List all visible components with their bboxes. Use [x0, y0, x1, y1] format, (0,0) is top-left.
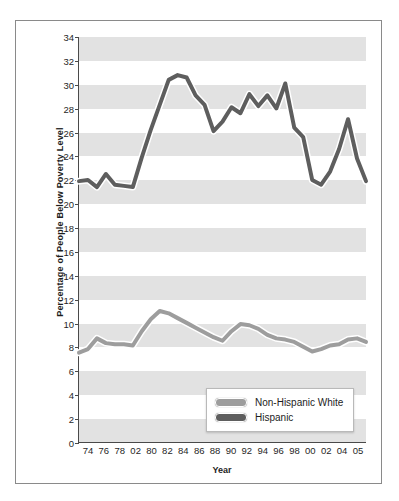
x-tick-label: 74 [83, 445, 94, 456]
x-tick-label: 96 [273, 445, 284, 456]
y-tick-label: 16 [63, 246, 74, 257]
legend-label: Non-Hispanic White [255, 397, 343, 408]
x-tick-label: 05 [353, 445, 364, 456]
legend-item: Non-Hispanic White [215, 395, 343, 410]
legend-label: Hispanic [255, 412, 293, 423]
line-chart-svg [79, 37, 366, 442]
x-tick-label: 00 [305, 445, 316, 456]
x-tick-label: 94 [257, 445, 268, 456]
x-tick-label: 88 [210, 445, 221, 456]
chart-figure: Percentage of People Below Poverty Level… [15, 20, 382, 484]
x-tick-label: 90 [226, 445, 237, 456]
x-tick-label: 80 [146, 445, 157, 456]
legend-swatch-non-hispanic-white [215, 398, 247, 407]
y-tick-label: 24 [63, 151, 74, 162]
y-tick-label: 28 [63, 103, 74, 114]
plot-area: 0246810121416182022242628303234 [78, 37, 366, 443]
y-tick-label: 18 [63, 223, 74, 234]
y-tick-label: 20 [63, 199, 74, 210]
x-tick-label: 82 [162, 445, 173, 456]
y-tick-label: 12 [63, 294, 74, 305]
y-tick-label: 4 [69, 390, 74, 401]
y-tick-label: 34 [63, 32, 74, 43]
y-tick-label: 14 [63, 270, 74, 281]
y-tick-mark [75, 443, 79, 444]
x-tick-label: 02 [321, 445, 332, 456]
y-tick-label: 32 [63, 55, 74, 66]
series-halo [79, 75, 366, 187]
x-tick-label: 98 [289, 445, 300, 456]
x-tick-label: 92 [242, 445, 253, 456]
series-line-hispanic [79, 75, 366, 187]
x-tick-label: 86 [194, 445, 205, 456]
y-tick-label: 26 [63, 127, 74, 138]
y-tick-label: 10 [63, 318, 74, 329]
y-tick-label: 6 [69, 366, 74, 377]
series-lines [79, 37, 366, 442]
x-tick-label: 78 [114, 445, 125, 456]
x-axis-title: Year [78, 465, 366, 475]
legend-item: Hispanic [215, 410, 343, 425]
x-tick-label: 76 [99, 445, 110, 456]
legend-swatch-hispanic [215, 413, 247, 422]
y-tick-label: 30 [63, 79, 74, 90]
chart-legend: Non-Hispanic White Hispanic [206, 388, 354, 432]
x-tick-label: 84 [178, 445, 189, 456]
x-axis-ticks: 747678028082848688909294969800020405 [78, 445, 366, 461]
y-tick-label: 22 [63, 175, 74, 186]
x-tick-label: 02 [130, 445, 141, 456]
y-tick-label: 0 [69, 438, 74, 449]
x-tick-label: 04 [337, 445, 348, 456]
y-tick-label: 2 [69, 414, 74, 425]
y-tick-label: 8 [69, 342, 74, 353]
